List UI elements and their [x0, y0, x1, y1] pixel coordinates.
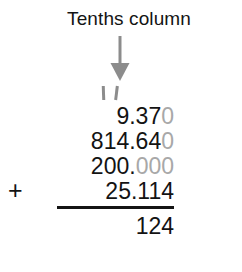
- addend-row: 9.370: [0, 104, 242, 129]
- addend-row: 814.640: [0, 129, 242, 154]
- addend-row: 200.000: [0, 154, 242, 179]
- plus-operator: +: [8, 178, 23, 203]
- answer-value: 124: [136, 214, 174, 239]
- addend-significant-4: 25.114: [105, 178, 174, 204]
- addend-value-2: 814.640: [91, 129, 174, 154]
- answer-row: 124: [0, 214, 242, 239]
- down-arrow-icon: [103, 36, 137, 82]
- addend-value-3: 200.000: [91, 154, 174, 179]
- sum-rule: [57, 206, 174, 209]
- addend-significant-1: 9.37: [116, 103, 161, 129]
- tick-mark-left: [102, 86, 105, 100]
- addend-padding-zeros-2: 0: [161, 128, 174, 154]
- addition-stack: 9.370 814.640 200.000 + 25.114 124: [0, 104, 242, 272]
- decimal-addition-worksheet: Tenths column 9.370 814.640 200.000 + 25…: [0, 0, 242, 272]
- tally-tick-marks-icon: [98, 86, 132, 104]
- addend-padding-zeros-1: 0: [161, 103, 174, 129]
- addend-padding-zeros-3: 000: [136, 153, 174, 179]
- page-title: Tenths column: [0, 8, 242, 30]
- addend-significant-2: 814.64: [91, 128, 161, 154]
- addend-value-1: 9.370: [116, 104, 174, 129]
- addend-row: + 25.114: [0, 179, 242, 204]
- tick-mark-right: [114, 86, 119, 100]
- addend-value-4: 25.114: [105, 179, 174, 204]
- addend-significant-3: 200.: [91, 153, 136, 179]
